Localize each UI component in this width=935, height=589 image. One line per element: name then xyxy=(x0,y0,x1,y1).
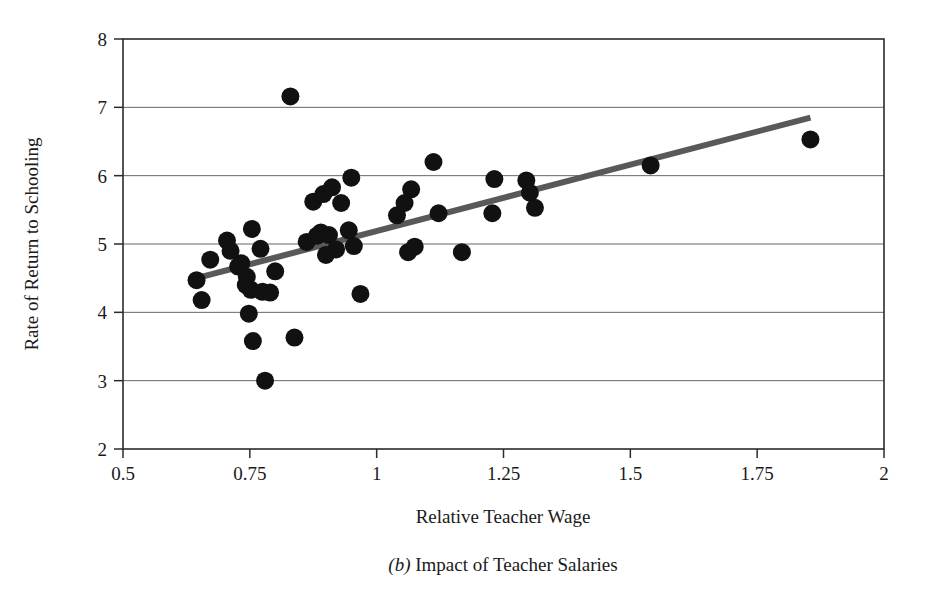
y-tick-label: 8 xyxy=(98,29,108,50)
x-axis-ticks xyxy=(123,449,884,458)
data-point xyxy=(261,284,279,302)
data-point xyxy=(351,285,369,303)
data-point xyxy=(323,178,341,196)
figure-container: 2345678 0.50.7511.251.51.752 Rate of Ret… xyxy=(0,0,935,589)
y-tick-label: 4 xyxy=(98,302,108,323)
gridlines xyxy=(123,107,884,380)
caption-label: (b) xyxy=(388,554,410,576)
data-points xyxy=(188,87,820,389)
data-point xyxy=(342,169,360,187)
x-tick-label: 1 xyxy=(372,463,382,484)
data-point xyxy=(424,153,442,171)
data-point xyxy=(345,237,363,255)
y-tick-label: 6 xyxy=(98,166,108,187)
caption-body: Impact of Teacher Salaries xyxy=(410,554,617,575)
data-point xyxy=(256,372,274,390)
data-point xyxy=(406,238,424,256)
data-point xyxy=(430,204,448,222)
data-point xyxy=(453,243,471,261)
y-tick-label: 3 xyxy=(98,371,108,392)
data-point xyxy=(266,262,284,280)
y-axis-title: Rate of Return to Schooling xyxy=(21,137,42,351)
data-point xyxy=(340,221,358,239)
data-point xyxy=(281,87,299,105)
y-tick-label: 7 xyxy=(98,97,108,118)
x-tick-label: 1.5 xyxy=(618,463,642,484)
y-axis-tick-labels: 2345678 xyxy=(98,29,108,460)
data-point xyxy=(240,305,258,323)
x-tick-label: 0.75 xyxy=(233,463,266,484)
data-point xyxy=(327,240,345,258)
x-axis-title: Relative Teacher Wage xyxy=(416,506,591,527)
trend-line xyxy=(197,118,811,279)
figure-caption: (b) Impact of Teacher Salaries xyxy=(388,554,617,576)
data-point xyxy=(201,251,219,269)
x-tick-label: 2 xyxy=(879,463,889,484)
regression-line xyxy=(197,118,811,279)
x-tick-label: 1.25 xyxy=(487,463,520,484)
x-axis-tick-labels: 0.50.7511.251.51.752 xyxy=(111,463,889,484)
data-point xyxy=(483,204,501,222)
data-point xyxy=(193,291,211,309)
data-point xyxy=(402,180,420,198)
data-point xyxy=(243,220,261,238)
data-point xyxy=(642,156,660,174)
data-point xyxy=(244,332,262,350)
scatter-plot: 2345678 0.50.7511.251.51.752 Rate of Ret… xyxy=(0,0,935,589)
y-tick-label: 2 xyxy=(98,439,108,460)
data-point xyxy=(526,199,544,217)
data-point xyxy=(801,130,819,148)
data-point xyxy=(188,271,206,289)
x-tick-label: 1.75 xyxy=(741,463,774,484)
data-point xyxy=(285,329,303,347)
x-tick-label: 0.5 xyxy=(111,463,135,484)
data-point xyxy=(485,170,503,188)
data-point xyxy=(332,194,350,212)
y-axis-ticks xyxy=(114,39,123,449)
data-point xyxy=(251,240,269,258)
y-tick-label: 5 xyxy=(98,234,108,255)
